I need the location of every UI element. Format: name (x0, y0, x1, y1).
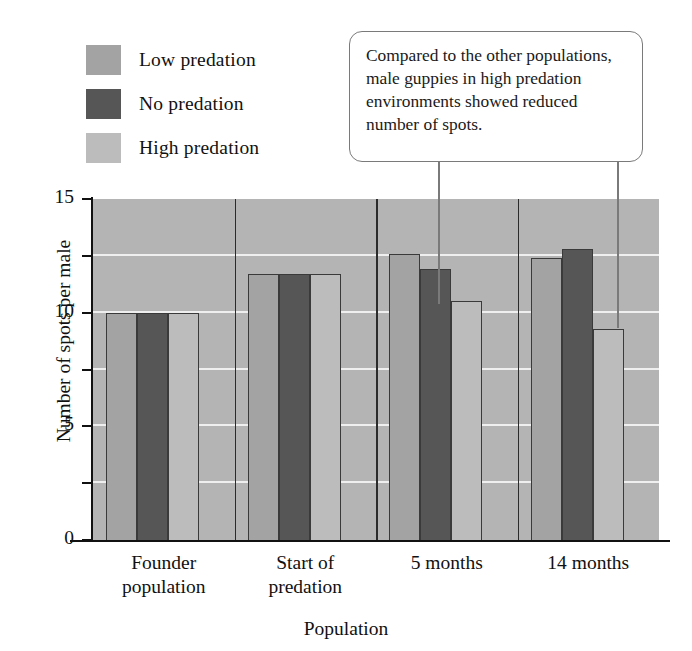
bar (420, 269, 451, 540)
y-axis-tick (82, 369, 92, 371)
x-axis-tick-label-line: 14 months (508, 551, 668, 575)
bar (531, 258, 562, 540)
legend-label-low-predation: Low predation (139, 49, 256, 71)
bar (106, 313, 137, 540)
bar (279, 274, 310, 540)
y-axis-tick (82, 539, 92, 541)
x-axis-tick-label: 14 months (508, 551, 668, 575)
y-axis-tick (82, 312, 92, 314)
guppy-spots-bar-chart: Low predation No predation High predatio… (0, 0, 692, 651)
callout-leader-line-14-months (617, 162, 619, 328)
group-separator (376, 199, 378, 540)
bar (389, 254, 420, 540)
x-axis-tick-label: 5 months (367, 551, 527, 575)
group-separator (235, 199, 237, 540)
x-axis-tick-label-line: 5 months (367, 551, 527, 575)
callout-leader-line-5-months (438, 162, 440, 304)
bar (451, 301, 482, 540)
x-axis-tick-label-line: Founder (84, 551, 244, 575)
bar (562, 249, 593, 540)
y-axis-tick (82, 198, 92, 200)
x-axis-tick-label: Start ofpredation (225, 551, 385, 599)
legend-swatch-low-predation (86, 45, 121, 75)
callout-text: Compared to the other populations, male … (366, 44, 628, 137)
y-axis-tick-label: 10 (40, 300, 74, 322)
y-axis-tick (82, 425, 92, 427)
x-axis-tick-label: Founderpopulation (84, 551, 244, 599)
y-axis-tick (82, 255, 92, 257)
x-axis-tick-label-line: predation (225, 575, 385, 599)
x-axis-line (70, 540, 670, 542)
callout-box: Compared to the other populations, male … (349, 31, 643, 162)
x-axis-title: Population (0, 618, 692, 640)
bar (137, 313, 168, 540)
y-axis-tick (82, 482, 92, 484)
chart-legend: Low predation No predation High predatio… (86, 38, 326, 170)
bar (168, 313, 199, 540)
x-axis-tick-label-line: population (84, 575, 244, 599)
y-axis-tick-label: 15 (40, 186, 74, 208)
legend-label-high-predation: High predation (139, 137, 259, 159)
y-axis-title: Number of spots per male (53, 191, 75, 491)
legend-item-high-predation: High predation (86, 126, 326, 170)
legend-swatch-no-predation (86, 89, 121, 119)
y-axis-tick-label: 5 (40, 413, 74, 435)
legend-swatch-high-predation (86, 133, 121, 163)
plot-area (93, 199, 659, 540)
y-axis-tick-label: 0 (40, 527, 74, 549)
x-axis-tick-label-line: Start of (225, 551, 385, 575)
bar (248, 274, 279, 540)
bar (310, 274, 341, 540)
group-separator (518, 199, 520, 540)
legend-item-no-predation: No predation (86, 82, 326, 126)
legend-label-no-predation: No predation (139, 93, 244, 115)
bar (593, 329, 624, 540)
legend-item-low-predation: Low predation (86, 38, 326, 82)
